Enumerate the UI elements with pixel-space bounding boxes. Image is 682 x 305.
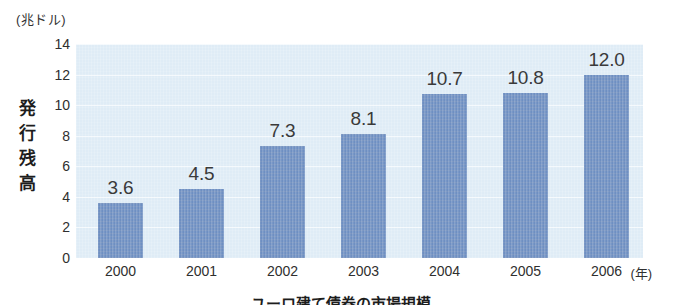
y-axis-title-char: 発 [14,96,40,121]
bar-chart-figure: (兆ドル) 発 行 残 高 02468101214 20002001200220… [0,0,682,305]
x-axis-tick-label: 2001 [162,263,242,279]
y-axis-title: 発 行 残 高 [14,96,40,196]
y-axis-tick-label: 12 [42,68,70,82]
bar [422,94,467,258]
x-axis-unit-label: (年) [631,263,653,282]
bar-value-label: 4.5 [167,163,237,185]
y-axis-title-char: 残 [14,146,40,171]
bar-value-label: 10.7 [410,68,480,90]
bar-value-label: 12.0 [572,49,642,71]
bar [98,203,143,258]
bar [179,189,224,258]
y-axis-tick-label: 0 [42,251,70,265]
y-axis-tick-labels: 02468101214 [40,0,70,305]
bar [260,146,305,258]
y-axis-tick-label: 8 [42,129,70,143]
x-axis-tick-label: 2004 [405,263,485,279]
bar-value-label: 3.6 [86,177,156,199]
bar [584,75,629,258]
bar [341,134,386,258]
x-axis-tick-label: 2002 [243,263,323,279]
figure-caption: ユーロ建て債券の市場規模 [0,292,682,305]
bar-value-label: 10.8 [491,67,561,89]
y-axis-tick-label: 2 [42,220,70,234]
y-axis-tick-label: 4 [42,190,70,204]
y-axis-tick-label: 6 [42,159,70,173]
x-axis-tick-label: 2003 [324,263,404,279]
y-axis-title-char: 行 [14,121,40,146]
x-axis-tick-label: 2000 [81,263,161,279]
y-axis-tick-label: 10 [42,98,70,112]
bar-value-label: 8.1 [329,108,399,130]
gridline [76,105,643,106]
y-axis-tick-label: 14 [42,37,70,51]
y-axis-title-char: 高 [14,171,40,196]
bar [503,93,548,258]
x-axis-tick-label: 2005 [486,263,566,279]
bar-value-label: 7.3 [248,120,318,142]
gridline [76,44,643,45]
